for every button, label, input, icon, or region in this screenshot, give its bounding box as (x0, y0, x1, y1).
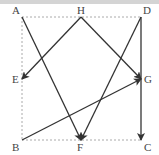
arrow-edges (22, 17, 141, 140)
arrow-B-to-G (22, 79, 141, 140)
arrow-diagram: AHDEGBFC (0, 0, 159, 155)
point-label-D: D (143, 4, 151, 16)
point-label-F: F (77, 141, 83, 153)
point-labels: AHDEGBFC (12, 4, 152, 153)
point-label-G: G (144, 73, 152, 85)
point-label-C: C (144, 141, 151, 153)
arrow-A-to-F (22, 17, 81, 140)
point-label-H: H (77, 4, 85, 16)
arrow-H-to-G (81, 17, 141, 79)
dashed-edges (22, 17, 141, 140)
point-label-B: B (12, 141, 19, 153)
arrow-H-to-E (22, 17, 81, 79)
point-label-A: A (12, 4, 20, 16)
arrow-D-to-F (81, 17, 141, 140)
point-label-E: E (12, 73, 19, 85)
